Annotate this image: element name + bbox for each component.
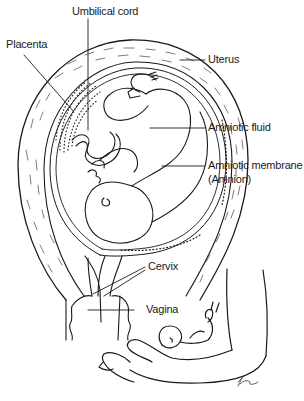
diagram-canvas: Umbilical cord Placenta Uterus Amniotic … xyxy=(0,0,304,401)
hand-with-fetus xyxy=(99,269,267,383)
cervix-vagina xyxy=(66,256,200,340)
label-amniotic-membrane: Amniotic membrane xyxy=(208,159,302,172)
umbilical-cord xyxy=(72,132,120,165)
uterus-illustration xyxy=(0,0,304,401)
label-cervix: Cervix xyxy=(148,260,178,273)
label-amnion: (Amnion) xyxy=(208,173,251,186)
label-umbilical-cord: Umbilical cord xyxy=(72,5,138,18)
label-placenta: Placenta xyxy=(6,38,47,51)
label-amniotic-fluid: Amniotic fluid xyxy=(208,121,271,134)
label-uterus: Uterus xyxy=(208,53,239,66)
label-vagina: Vagina xyxy=(146,303,178,316)
